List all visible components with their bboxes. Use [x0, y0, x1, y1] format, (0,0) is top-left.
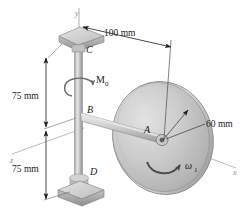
spin-label: ω — [185, 160, 192, 171]
point-b-label: B — [87, 104, 93, 115]
figure-canvas: y z x 100 mm — [0, 0, 249, 212]
point-d-label: D — [89, 166, 98, 177]
dim-75u-ext-top — [48, 44, 62, 58]
vertical-shaft — [75, 40, 83, 183]
dimension-75mm-upper-label: 75 mm — [12, 91, 39, 101]
dimension-60mm-label: 60 mm — [206, 119, 233, 129]
dim-75u-ext-bot — [44, 118, 76, 129]
base-support-block — [58, 174, 104, 206]
moment-subscript: 0 — [105, 80, 109, 88]
y-axis-label: y — [74, 9, 79, 18]
spin-subscript: 1 — [194, 166, 198, 174]
moment-label: M — [96, 74, 105, 85]
point-a-label: A — [143, 124, 151, 135]
base-collar-top — [70, 174, 89, 182]
top-support-plate — [59, 27, 104, 52]
bearing-pin-a — [160, 138, 164, 142]
dimension-75mm-upper: 75 mm — [12, 44, 76, 129]
shaft-body — [75, 40, 83, 183]
z-axis-line — [12, 128, 84, 154]
applied-moment-indicator: M 0 — [65, 74, 109, 96]
engineering-figure: y z x 100 mm — [0, 0, 249, 212]
dimension-75mm-lower-label: 75 mm — [12, 164, 39, 174]
top-plate-collar — [72, 44, 85, 52]
point-c-label: C — [86, 44, 93, 55]
x-axis-label: x — [232, 168, 237, 177]
dimension-100mm-label: 100 mm — [104, 28, 136, 38]
